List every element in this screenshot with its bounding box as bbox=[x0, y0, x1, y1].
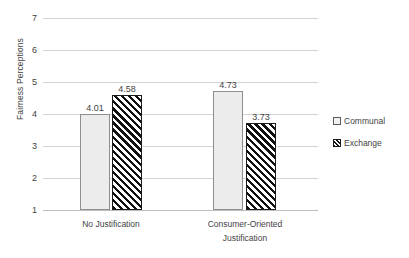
x-axis-label-line1: No Justification bbox=[82, 219, 140, 229]
bar-consumer-oriented-communal: 4.73 bbox=[213, 91, 243, 210]
bar-no-justification-communal: 4.01 bbox=[80, 114, 110, 210]
y-tick-label-4: 4 bbox=[32, 109, 37, 119]
bar-value-label: 4.01 bbox=[86, 103, 104, 113]
bar-value-label: 4.58 bbox=[118, 84, 136, 94]
gridline-1-baseline: 1 bbox=[43, 210, 318, 211]
bar-no-justification-exchange: 4.58 bbox=[112, 95, 142, 210]
y-tick-label-7: 7 bbox=[32, 13, 37, 23]
bar-consumer-oriented-exchange: 3.73 bbox=[246, 123, 276, 210]
x-axis-label-line2: Justification bbox=[208, 231, 283, 245]
x-axis-label-consumer-oriented: Consumer-Oriented Justification bbox=[208, 217, 283, 245]
y-tick-label-6: 6 bbox=[32, 45, 37, 55]
bar-value-label: 3.73 bbox=[252, 112, 270, 122]
plot-area: 7 6 5 4 3 2 1 4.01 4.58 4.73 bbox=[43, 18, 318, 210]
y-tick-label-1: 1 bbox=[32, 205, 37, 215]
legend-item-communal[interactable]: Communal bbox=[333, 113, 409, 129]
x-axis-label-no-justification: No Justification bbox=[82, 217, 140, 231]
x-axis-label-line1: Consumer-Oriented bbox=[208, 219, 283, 229]
y-axis-title: Fairness Perceptions bbox=[15, 19, 25, 139]
y-tick-label-3: 3 bbox=[32, 141, 37, 151]
gridline-7: 7 bbox=[43, 18, 318, 19]
bar-chart: Fairness Perceptions 7 6 5 4 3 2 1 4.01 … bbox=[0, 0, 409, 258]
legend-label-communal: Communal bbox=[344, 116, 385, 126]
legend: Communal Exchange bbox=[333, 113, 409, 157]
bar-value-label: 4.73 bbox=[219, 80, 237, 90]
communal-swatch-icon bbox=[333, 117, 341, 125]
y-tick-label-2: 2 bbox=[32, 173, 37, 183]
y-tick-label-5: 5 bbox=[32, 77, 37, 87]
gridline-6: 6 bbox=[43, 50, 318, 51]
legend-item-exchange[interactable]: Exchange bbox=[333, 135, 409, 151]
legend-label-exchange: Exchange bbox=[344, 138, 382, 148]
exchange-hatched-swatch-icon bbox=[333, 139, 341, 147]
gridline-5: 5 bbox=[43, 82, 318, 83]
